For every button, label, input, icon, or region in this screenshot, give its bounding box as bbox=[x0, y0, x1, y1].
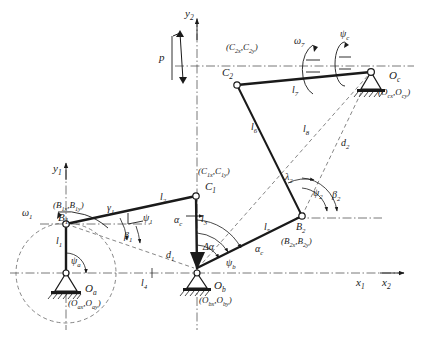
force-p-head-up bbox=[176, 30, 184, 37]
link-l2-label: l2 bbox=[160, 192, 166, 205]
force-p-label: p bbox=[159, 52, 165, 63]
joint-c2 bbox=[234, 82, 240, 88]
omega-1-label: ω1 bbox=[22, 208, 32, 221]
omega-7-head bbox=[313, 45, 318, 52]
oc-coordinates-label: (Ocx,Ocy) bbox=[378, 88, 410, 99]
ground-support-oa bbox=[48, 273, 81, 299]
joint-c1 bbox=[193, 193, 199, 199]
psi-1-label: ψ1 bbox=[143, 213, 153, 226]
oa-coordinates-label: (Oax,Oay) bbox=[68, 299, 101, 310]
beta-2-label: β2 bbox=[332, 190, 340, 203]
gamma-1-label: γ1 bbox=[107, 203, 114, 216]
joint-b2 bbox=[299, 213, 305, 219]
ground-support-ob bbox=[180, 273, 211, 296]
joint-oc bbox=[368, 69, 375, 76]
omega-7-label: ω7 bbox=[294, 36, 304, 49]
link-l3-label: l3 bbox=[201, 214, 207, 227]
c1-point-label: C1 bbox=[205, 181, 216, 195]
b1-point-label: B1 bbox=[58, 212, 68, 226]
arc-beta-1 bbox=[136, 226, 140, 243]
c1-coordinates-label: (C1x,C1y) bbox=[198, 167, 230, 178]
omega-7-arrow bbox=[302, 45, 320, 94]
psi-a-label: ψa bbox=[71, 256, 81, 269]
c2-coordinates-label: (C2x,C2y) bbox=[226, 43, 258, 54]
omega-7-arc-left bbox=[302, 45, 313, 94]
alpha-c-upper-label: αc bbox=[174, 215, 182, 228]
link-l4-label: l4 bbox=[141, 278, 147, 291]
x2-axis-label: x2 bbox=[382, 277, 391, 291]
d1-label: d1 bbox=[166, 250, 174, 263]
delta-alpha-label: Δα bbox=[203, 242, 214, 252]
link-l8-label: l8 bbox=[303, 124, 309, 137]
force-p-arrow bbox=[172, 30, 187, 84]
oc-point-label: Oc bbox=[389, 70, 400, 84]
arc-psi-1-bracket bbox=[128, 213, 143, 224]
ob-point-label: Ob bbox=[214, 280, 226, 294]
d2-label: d2 bbox=[341, 138, 349, 151]
joint-ob bbox=[194, 270, 200, 276]
psi-c-arc bbox=[335, 42, 345, 86]
psi-b-label: ψb bbox=[226, 258, 236, 271]
lambda-2-label: λ2 bbox=[285, 172, 293, 185]
link-l7 bbox=[237, 72, 371, 85]
link-l5-label: l5 bbox=[264, 222, 270, 235]
y2-axis-label: y2 bbox=[185, 8, 194, 22]
psi-c-arrow bbox=[335, 42, 351, 86]
joint-oa bbox=[63, 270, 69, 276]
oa-point-label: Oa bbox=[85, 283, 97, 297]
ob-coordinates-label: (Obx,Oby) bbox=[199, 296, 232, 307]
psi-c-label: ψc bbox=[340, 29, 349, 42]
psi-2-label: ψ2 bbox=[313, 188, 323, 201]
alpha-c-lower-label: αc bbox=[255, 244, 263, 257]
linkage-diagram-figure: y1 y2 x1 x2 p (C2x,C2y) C2 Oc (Ocx,Ocy) … bbox=[0, 0, 422, 345]
b2-coordinates-label: (B2x,B2y) bbox=[281, 237, 312, 248]
force-p-head-down bbox=[179, 77, 187, 84]
link-l1-label: l1 bbox=[56, 236, 62, 249]
link-l6 bbox=[237, 85, 302, 216]
force-p-path bbox=[173, 33, 183, 80]
x1-axis-label: x1 bbox=[356, 277, 365, 291]
link-l6-label: l6 bbox=[251, 122, 257, 135]
c2-point-label: C2 bbox=[222, 67, 233, 81]
y1-axis-label: y1 bbox=[53, 163, 62, 177]
link-l7-label: l7 bbox=[292, 85, 298, 98]
psi-c-head bbox=[344, 42, 349, 48]
beta-1-label: β1 bbox=[124, 231, 132, 244]
b2-point-label: B2 bbox=[296, 222, 306, 235]
